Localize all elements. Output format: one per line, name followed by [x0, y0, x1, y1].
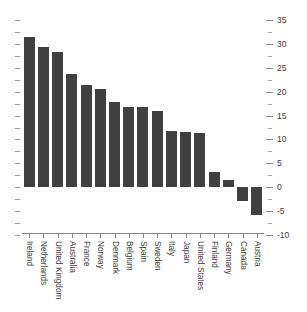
x-category-label: Belgium — [125, 241, 133, 271]
bar-slot — [122, 20, 136, 235]
x-category-label: Ireland — [25, 241, 33, 266]
x-category-label: Denmark — [110, 241, 118, 274]
bar[interactable] — [24, 37, 35, 188]
bar[interactable] — [152, 111, 163, 187]
bar-slot — [65, 20, 79, 235]
bar-slot — [136, 20, 150, 235]
x-tick — [29, 233, 30, 238]
bar-slot — [150, 20, 164, 235]
y-tick-left — [15, 56, 20, 57]
x-category-label: Finland — [210, 241, 218, 268]
y-tick-label: 0 — [277, 183, 282, 192]
y-tick-major — [266, 92, 273, 93]
x-tick — [157, 233, 158, 238]
x-category-label: Japan — [182, 241, 190, 263]
bar[interactable] — [166, 131, 177, 187]
plot-area — [22, 20, 264, 235]
x-category-label: Sweden — [153, 241, 161, 271]
y-tick-left — [15, 223, 20, 224]
x-category-label: Canada — [239, 241, 247, 270]
x-tick — [171, 233, 172, 238]
bar[interactable] — [95, 89, 106, 187]
bar-slot — [107, 20, 121, 235]
bar[interactable] — [251, 187, 262, 215]
bar-slot — [164, 20, 178, 235]
x-category-label: United Kingdom — [53, 241, 61, 299]
x-tick — [100, 233, 101, 238]
y-tick-left — [15, 104, 20, 105]
y-tick-major — [266, 44, 273, 45]
y-tick-major — [266, 187, 273, 188]
x-tick — [200, 233, 201, 238]
bar[interactable] — [66, 74, 77, 188]
bar-chart: 35302520151050-5-10 IrelandNetherlandsUn… — [0, 0, 307, 312]
y-tick-label: 5 — [277, 159, 282, 168]
x-category-label: Italy — [167, 241, 175, 256]
x-category-label: United States — [196, 241, 204, 290]
y-tick-left — [15, 32, 20, 33]
x-tick — [86, 233, 87, 238]
bar[interactable] — [123, 107, 134, 187]
x-tick — [257, 233, 258, 238]
y-tick-label: -5 — [277, 207, 285, 216]
bar-slot — [50, 20, 64, 235]
y-tick-left — [15, 235, 20, 236]
x-tick — [214, 233, 215, 238]
y-tick-major — [266, 235, 273, 236]
y-tick-minor — [268, 199, 272, 200]
y-tick-minor — [268, 56, 272, 57]
x-category-label: Spain — [139, 241, 147, 262]
bar-slot — [79, 20, 93, 235]
x-tick — [228, 233, 229, 238]
bar[interactable] — [38, 47, 49, 187]
y-tick-label: 10 — [277, 135, 286, 144]
bar[interactable] — [137, 107, 148, 187]
y-tick-label: -10 — [277, 231, 289, 240]
y-tick-left — [15, 68, 20, 69]
y-tick-minor — [268, 32, 272, 33]
bar-slot — [22, 20, 36, 235]
bar-slot — [250, 20, 264, 235]
bar[interactable] — [194, 133, 205, 187]
x-tick — [243, 233, 244, 238]
y-tick-minor — [268, 128, 272, 129]
x-tick — [72, 233, 73, 238]
y-tick-left — [15, 187, 20, 188]
bar-slot — [236, 20, 250, 235]
bar[interactable] — [223, 180, 234, 188]
y-tick-major — [266, 211, 273, 212]
bar-slot — [221, 20, 235, 235]
x-category-label: Netherlands — [39, 241, 47, 285]
x-tick — [115, 233, 116, 238]
y-tick-minor — [268, 175, 272, 176]
y-tick-left — [15, 44, 20, 45]
bar[interactable] — [180, 132, 191, 187]
bar[interactable] — [209, 172, 220, 187]
bar-slot — [179, 20, 193, 235]
y-tick-left — [15, 80, 20, 81]
y-tick-label: 20 — [277, 87, 286, 96]
y-tick-label: 35 — [277, 16, 286, 25]
y-tick-major — [266, 116, 273, 117]
y-tick-label: 25 — [277, 64, 286, 73]
y-tick-left — [15, 199, 20, 200]
bar[interactable] — [109, 102, 120, 187]
y-tick-minor — [268, 223, 272, 224]
y-tick-left — [15, 139, 20, 140]
bars-layer — [22, 20, 264, 235]
y-tick-left — [15, 128, 20, 129]
x-tick — [58, 233, 59, 238]
y-tick-minor — [268, 80, 272, 81]
bar-slot — [193, 20, 207, 235]
x-tick — [129, 233, 130, 238]
y-tick-minor — [268, 151, 272, 152]
bar[interactable] — [52, 52, 63, 187]
bar[interactable] — [237, 187, 248, 200]
y-tick-minor — [268, 104, 272, 105]
bar[interactable] — [81, 85, 92, 188]
y-tick-major — [266, 139, 273, 140]
y-tick-label: 15 — [277, 111, 286, 120]
y-tick-left — [15, 163, 20, 164]
y-tick-left — [15, 151, 20, 152]
bar-slot — [36, 20, 50, 235]
